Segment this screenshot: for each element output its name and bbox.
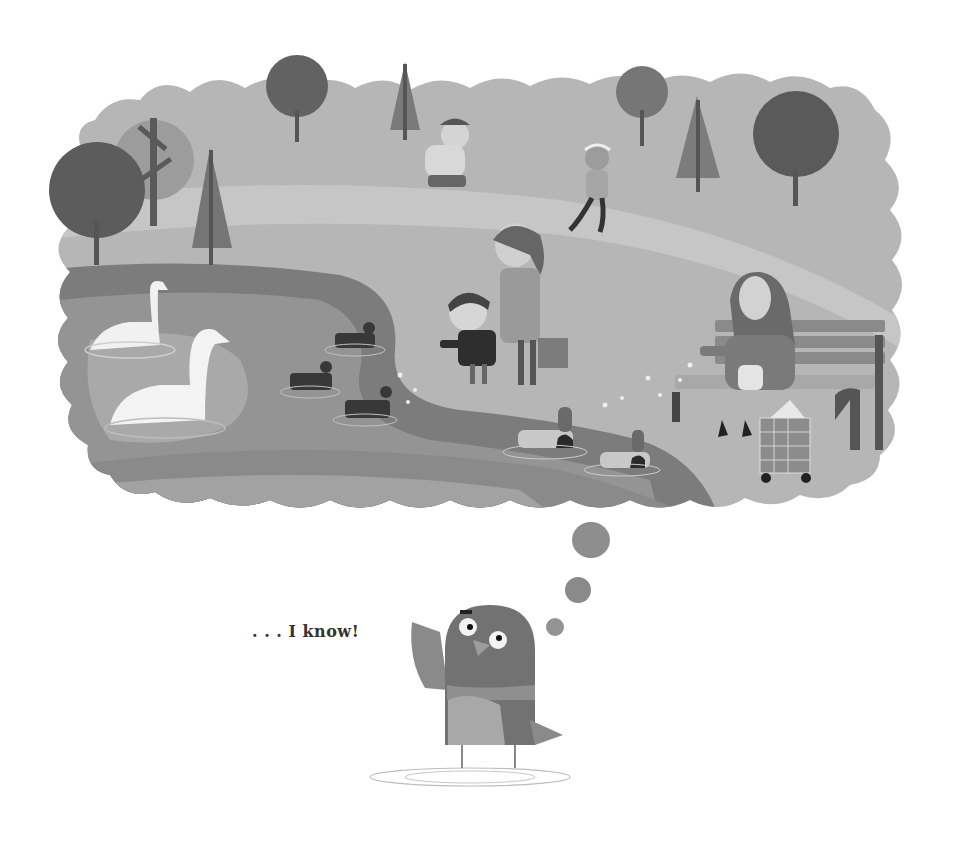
thought-bubble-large bbox=[572, 522, 610, 558]
illustration bbox=[0, 0, 963, 857]
pigeon-wing bbox=[411, 622, 448, 690]
thought-bubble-small bbox=[546, 618, 564, 636]
thought-bubbles bbox=[546, 522, 610, 636]
caption-text: . . . I know! bbox=[252, 622, 359, 641]
pigeon-belly bbox=[448, 696, 505, 745]
thought-bubble-medium bbox=[565, 577, 591, 603]
pigeon bbox=[370, 605, 570, 786]
pigeon-eyebrow bbox=[460, 610, 472, 614]
handbag bbox=[538, 338, 568, 368]
pigeon-tail bbox=[530, 720, 563, 745]
